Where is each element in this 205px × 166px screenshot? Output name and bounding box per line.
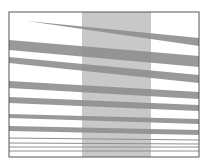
striped-band-diagram <box>0 0 205 166</box>
